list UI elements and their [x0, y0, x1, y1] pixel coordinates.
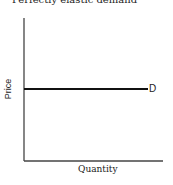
demand-curve-label: D [149, 83, 156, 94]
y-axis-label: Price [3, 79, 13, 100]
x-axis-label: Quantity [78, 164, 118, 174]
diagram-canvas [0, 0, 173, 185]
